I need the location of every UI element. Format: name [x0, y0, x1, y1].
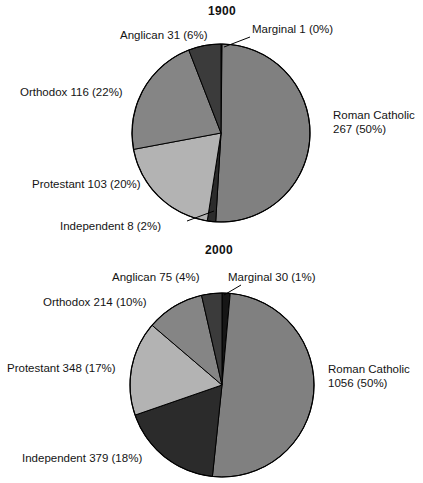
slice-label-roman_catholic: Roman Catholic1056 (50%) — [328, 362, 423, 390]
slice-label-line: Marginal 30 (1%) — [228, 270, 316, 284]
slice-label-line: Orthodox 214 (10%) — [43, 295, 147, 309]
pie-chart-figure: 1900Marginal 1 (0%)Roman Catholic267 (50… — [0, 0, 423, 483]
slice-label-line: Roman Catholic — [328, 362, 423, 376]
slice-label-line: 1056 (50%) — [328, 376, 423, 390]
slice-label-line: Independent 379 (18%) — [22, 451, 142, 465]
slice-label-line: Protestant 348 (17%) — [7, 361, 116, 375]
pie-2000 — [0, 0, 423, 483]
slice-label-protestant: Protestant 348 (17%) — [7, 361, 116, 375]
slice-label-line: Anglican 75 (4%) — [112, 270, 200, 284]
slice-label-independent: Independent 379 (18%) — [22, 451, 142, 465]
slice-label-marginal: Marginal 30 (1%) — [228, 270, 316, 284]
slice-label-anglican: Anglican 75 (4%) — [112, 270, 200, 284]
slice-label-orthodox: Orthodox 214 (10%) — [43, 295, 147, 309]
pie-slice-roman_catholic[interactable] — [212, 293, 314, 477]
